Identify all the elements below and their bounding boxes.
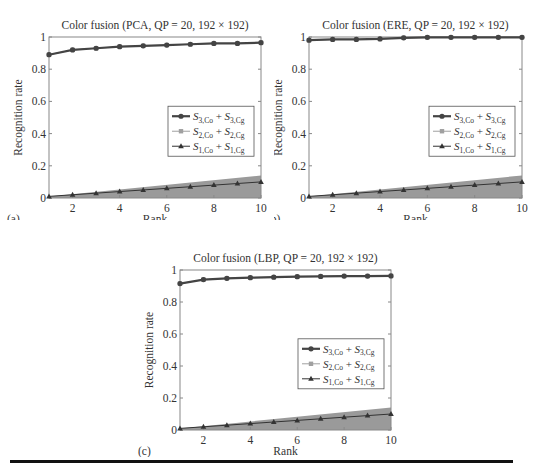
x-tick-label: 2 [201,434,207,446]
x-tick-label: 8 [472,202,478,214]
y-axis-label: Recognition rate [12,79,25,155]
circle-marker-icon [295,274,300,279]
circle-marker-icon [388,273,393,278]
chart-title: Color fusion (LBP, QP = 20, 192 × 192) [193,252,378,265]
legend: S3,Co + S3,CgS2,Co + S2,CgS1,Co + S1,Cg [429,106,515,156]
panel-label: (b) [274,213,281,220]
legend-square-icon [309,362,313,366]
legend-circle-icon [178,114,183,119]
y-axis-label: Recognition rate [143,312,156,388]
x-tick-label: 4 [247,434,253,446]
circle-marker-icon [46,52,51,57]
x-tick-label: 4 [117,202,123,214]
legend-square-icon [179,129,183,133]
legend-square-icon [440,129,444,133]
y-tick-label: 0 [40,192,46,204]
circle-marker-icon [248,275,253,280]
legend-circle-icon [439,114,444,119]
chart-title: Color fusion (PCA, QP = 20, 192 × 192) [62,19,249,32]
y-tick-label: 0.2 [32,160,47,172]
x-axis-label: Rank [273,445,298,457]
y-tick-label: 0.6 [292,95,307,107]
series-3 [306,35,524,43]
x-axis-label: Rank [403,213,428,220]
series-3 [177,273,393,286]
y-tick-label: 1 [171,264,177,276]
circle-marker-icon [472,35,477,40]
circle-marker-icon [141,43,146,48]
circle-marker-icon [519,35,524,40]
y-tick-label: 0.8 [292,63,307,75]
x-tick-label: 10 [255,202,267,214]
y-tick-label: 0 [171,424,177,436]
y-axis-label: Recognition rate [274,79,285,155]
circle-marker-icon [377,36,382,41]
x-tick-label: 8 [211,202,217,214]
panel-label: (a) [7,213,20,220]
circle-marker-icon [211,41,216,46]
circle-marker-icon [401,35,406,40]
y-tick-label: 0.2 [163,392,178,404]
circle-marker-icon [330,37,335,42]
x-tick-label: 10 [385,434,397,446]
circle-marker-icon [188,42,193,47]
circle-marker-icon [271,275,276,280]
chart-a: Color fusion (PCA, QP = 20, 192 × 192)00… [0,0,274,220]
y-tick-label: 0.8 [32,63,47,75]
chart-b: Color fusion (ERE, QP = 20, 192 × 192)00… [274,0,548,220]
y-tick-label: 0.8 [163,296,178,308]
y-tick-label: 0.4 [163,360,178,372]
chart-panel-a: Color fusion (PCA, QP = 20, 192 × 192)00… [0,0,274,220]
circle-marker-icon [258,40,263,45]
circle-marker-icon [496,35,501,40]
circle-marker-icon [117,44,122,49]
circle-marker-icon [235,41,240,46]
circle-marker-icon [318,274,323,279]
circle-marker-icon [177,281,182,286]
y-tick-label: 0.6 [163,328,178,340]
figure-bottom-rule [10,460,513,463]
legend: S3,Co + S3,CgS2,Co + S2,CgS1,Co + S1,Cg [298,339,384,389]
circle-marker-icon [425,35,430,40]
circle-marker-icon [365,273,370,278]
y-tick-label: 0.4 [292,128,307,140]
x-tick-label: 10 [516,202,528,214]
circle-marker-icon [201,277,206,282]
circle-marker-icon [342,273,347,278]
y-tick-label: 0.2 [292,160,307,172]
legend-circle-icon [308,346,313,351]
circle-marker-icon [224,276,229,281]
x-tick-label: 2 [330,202,336,214]
series-3 [46,40,263,57]
x-tick-label: 2 [70,202,76,214]
y-tick-label: 1 [40,31,46,43]
circle-marker-icon [354,37,359,42]
y-tick-label: 0 [300,192,306,204]
x-tick-label: 4 [377,202,383,214]
chart-title: Color fusion (ERE, QP = 20, 192 × 192) [322,19,508,32]
y-tick-label: 0.4 [32,128,47,140]
y-tick-label: 1 [300,31,306,43]
chart-panel-b: Color fusion (ERE, QP = 20, 192 × 192)00… [274,0,548,220]
circle-marker-icon [448,35,453,40]
chart-c: Color fusion (LBP, QP = 20, 192 × 192)00… [130,232,420,457]
legend: S3,Co + S3,CgS2,Co + S2,CgS1,Co + S1,Cg [168,106,254,156]
panel-label: (c) [138,445,151,457]
circle-marker-icon [70,47,75,52]
circle-marker-icon [164,42,169,47]
chart-panel-c: Color fusion (LBP, QP = 20, 192 × 192)00… [130,232,420,457]
circle-marker-icon [94,46,99,51]
x-axis-label: Rank [143,213,168,220]
y-tick-label: 0.6 [32,95,47,107]
circle-marker-icon [306,38,311,43]
x-tick-label: 8 [341,434,347,446]
